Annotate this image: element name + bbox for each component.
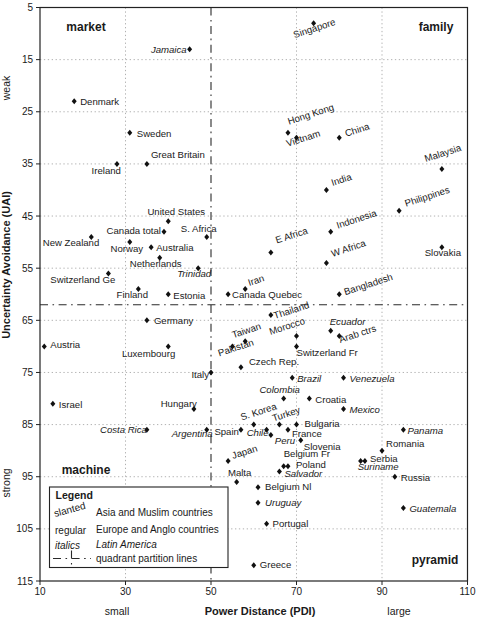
label-estonia: Estonia <box>173 290 206 301</box>
label-romania: Romania <box>386 438 425 449</box>
label-greece: Greece <box>260 559 291 570</box>
label-salvador: Salvador <box>284 468 323 479</box>
legend-title: Legend <box>56 489 93 501</box>
label-portugal: Portugal <box>273 518 309 529</box>
label-ireland: Ireland <box>92 165 121 176</box>
label-russia: Russia <box>401 472 431 483</box>
label-colombia: Colombia <box>259 384 300 395</box>
y-tick-label-115: 115 <box>17 576 33 587</box>
label-ecuador: Ecuador <box>330 316 367 327</box>
label-israel: Israel <box>59 399 82 410</box>
y-axis-side-label-strong: strong <box>0 468 12 497</box>
label-united-states: United States <box>147 206 205 217</box>
label-new-zealand: New Zealand <box>43 237 100 248</box>
label-malta: Malta <box>228 467 252 478</box>
label-switzerland-ge: Switzerland Ge <box>50 274 115 285</box>
legend-row-regular-text: Europe and Anglo countries <box>96 524 219 535</box>
x-tick-label-90: 90 <box>376 586 388 597</box>
x-tick-label-10: 10 <box>34 586 46 597</box>
y-tick-label-5: 5 <box>27 2 33 13</box>
label-uruguay: Uruguay <box>265 497 302 508</box>
quadrant-label-pyramid: pyramid <box>412 553 459 567</box>
y-tick-label-65: 65 <box>22 315 34 326</box>
label-guatemala: Guatemala <box>409 503 456 514</box>
quadrant-label-market: market <box>66 20 105 34</box>
label-canada-total: Canada total <box>107 225 161 236</box>
label-austria: Austria <box>50 339 81 350</box>
y-axis-side-label-weak: weak <box>0 75 12 101</box>
x-tick-label-110: 110 <box>460 586 476 597</box>
y-axis-title: Uncertainty Avoidance (UAI) <box>0 191 12 339</box>
label-germany: Germany <box>154 315 194 326</box>
label-hungary: Hungary <box>161 398 197 409</box>
x-tick-label-70: 70 <box>291 586 303 597</box>
label-belgium-fr: Belgium Fr <box>284 448 331 459</box>
y-tick-label-55: 55 <box>22 263 34 274</box>
y-tick-label-25: 25 <box>22 106 34 117</box>
label-canada-quebec: Canada Quebec <box>232 289 302 300</box>
y-tick-label-105: 105 <box>16 523 33 534</box>
x-tick-label-50: 50 <box>205 586 217 597</box>
y-tick-label-95: 95 <box>22 471 34 482</box>
label-s-africa: S. Africa <box>181 223 217 234</box>
label-trinidad: Trinidad <box>177 268 212 279</box>
label-bulgaria: Bulgaria <box>305 418 341 429</box>
label-australia: Australia <box>156 242 194 253</box>
x-axis-side-label-small: small <box>105 605 130 617</box>
legend-row-regular-key: regular <box>55 525 87 536</box>
x-axis-side-label-large: large <box>387 605 411 617</box>
label-belgium-nl: Belgium Nl <box>265 481 311 492</box>
label-luxembourg: Luxembourg <box>122 348 175 359</box>
y-tick-label-45: 45 <box>22 211 34 222</box>
label-panama: Panama <box>407 425 443 436</box>
quadrant-label-machine: machine <box>62 463 111 477</box>
label-spain: Spain <box>214 426 239 437</box>
label-brazil: Brazil <box>297 373 322 384</box>
label-jamaica: Jamaica <box>150 44 187 55</box>
hofstede-scatter-chart: 10305070901105152535455565758595105115Po… <box>0 0 477 624</box>
y-tick-label-75: 75 <box>22 367 34 378</box>
label-argentina: Argentina <box>171 428 213 439</box>
y-tick-label-15: 15 <box>22 54 34 65</box>
label-sweden: Sweden <box>137 128 172 139</box>
label-switzerland-fr: Switzerland Fr <box>297 347 359 358</box>
y-tick-label-85: 85 <box>22 419 34 430</box>
label-czech-rep: Czech Rep. <box>249 356 299 367</box>
label-france: France <box>292 428 322 439</box>
legend-row-line-text: quadrant partition lines <box>96 553 197 564</box>
quadrant-label-family: family <box>419 20 454 34</box>
label-chile: Chile <box>247 427 269 438</box>
legend-row-italics-key: italics <box>55 540 80 551</box>
y-tick-label-35: 35 <box>22 158 34 169</box>
label-venezuela: Venezuela <box>350 373 395 384</box>
label-norway: Norway <box>111 243 144 254</box>
label-finland: Finland <box>117 289 148 300</box>
legend-row-italics-text: Latin America <box>96 539 157 550</box>
x-axis-title: Power Distance (PDI) <box>205 605 316 617</box>
label-mexico: Mexico <box>350 404 381 415</box>
label-costa-rica: Costa Rica <box>100 424 147 435</box>
label-denmark: Denmark <box>80 96 119 107</box>
label-great-britain: Great Britain <box>151 149 205 160</box>
label-netherlands: Netherlands <box>130 258 182 269</box>
label-suriname: Suriname <box>358 461 399 472</box>
label-peru: Peru <box>275 435 296 446</box>
label-slovakia: Slovakia <box>425 247 462 258</box>
legend-row-slanted-text: Asia and Muslim countries <box>96 507 213 518</box>
label-italy: Italy <box>191 369 209 380</box>
hofstede-culture-map-figure: 10305070901105152535455565758595105115Po… <box>0 0 477 624</box>
label-croatia: Croatia <box>315 394 347 405</box>
x-tick-label-30: 30 <box>120 586 132 597</box>
